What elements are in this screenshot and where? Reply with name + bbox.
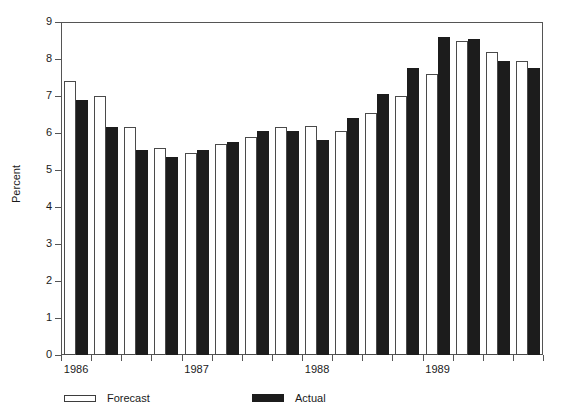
- bar-forecast-0: [64, 81, 76, 355]
- y-tick-label-0: 0: [12, 349, 52, 360]
- y-tick-1: [55, 318, 61, 319]
- bar-actual-9: [347, 118, 359, 355]
- bar-actual-1: [106, 127, 118, 355]
- y-tick-8: [55, 59, 61, 60]
- x-tick-16: [543, 355, 544, 361]
- y-tick-label-8: 8: [12, 53, 52, 64]
- y-tick-label-7: 7: [12, 90, 52, 101]
- actual-swatch-icon: [252, 394, 284, 402]
- bar-forecast-15: [516, 61, 528, 355]
- y-tick-9: [55, 22, 61, 23]
- x-tick-6: [242, 355, 243, 361]
- bar-forecast-11: [395, 96, 407, 355]
- bars-layer: [61, 22, 543, 355]
- bar-forecast-4: [185, 153, 197, 355]
- bar-actual-12: [438, 37, 450, 355]
- x-tick-11: [392, 355, 393, 361]
- y-tick-5: [55, 170, 61, 171]
- bar-forecast-12: [426, 74, 438, 355]
- forecast-swatch-icon: [64, 395, 96, 402]
- bar-actual-0: [76, 100, 88, 355]
- bar-actual-11: [407, 68, 419, 355]
- legend-label-actual: Actual: [295, 392, 326, 404]
- x-tick-4: [182, 355, 183, 361]
- x-tick-label-1989: 1989: [425, 363, 449, 375]
- y-tick-label-9: 9: [12, 16, 52, 27]
- bar-forecast-3: [154, 148, 166, 355]
- x-tick-0: [61, 355, 62, 361]
- bar-forecast-5: [215, 144, 227, 355]
- bar-actual-2: [136, 150, 148, 355]
- bar-forecast-8: [305, 126, 317, 355]
- x-tick-12: [423, 355, 424, 361]
- legend-entry-forecast: Forecast: [64, 388, 150, 408]
- x-tick-5: [212, 355, 213, 361]
- x-tick-1: [91, 355, 92, 361]
- y-tick-4: [55, 207, 61, 208]
- bar-actual-8: [317, 140, 329, 355]
- y-tick-label-6: 6: [12, 127, 52, 138]
- x-tick-2: [121, 355, 122, 361]
- bar-forecast-1: [94, 96, 106, 355]
- x-tick-8: [302, 355, 303, 361]
- x-tick-label-1986: 1986: [64, 363, 88, 375]
- bar-actual-13: [468, 39, 480, 355]
- bar-forecast-14: [486, 52, 498, 355]
- bar-actual-4: [197, 150, 209, 355]
- x-tick-3: [151, 355, 152, 361]
- bar-forecast-2: [124, 127, 136, 355]
- y-tick-label-3: 3: [12, 238, 52, 249]
- bar-forecast-6: [245, 137, 257, 355]
- y-tick-2: [55, 281, 61, 282]
- bar-forecast-9: [335, 131, 347, 355]
- y-tick-label-1: 1: [12, 312, 52, 323]
- bar-forecast-10: [365, 113, 377, 355]
- y-tick-7: [55, 96, 61, 97]
- y-axis-title: Percent: [10, 144, 22, 224]
- y-tick-label-2: 2: [12, 275, 52, 286]
- bar-actual-10: [377, 94, 389, 355]
- x-tick-10: [362, 355, 363, 361]
- bar-chart-figure: 0123456789 Percent 1986198719881989 Fore…: [0, 0, 569, 411]
- bar-forecast-13: [456, 41, 468, 356]
- x-tick-13: [453, 355, 454, 361]
- legend-label-forecast: Forecast: [107, 392, 150, 404]
- x-tick-14: [483, 355, 484, 361]
- bar-actual-15: [528, 68, 540, 355]
- bar-actual-14: [498, 61, 510, 355]
- x-tick-15: [513, 355, 514, 361]
- legend-entry-actual: Actual: [252, 388, 326, 408]
- x-tick-7: [272, 355, 273, 361]
- bar-actual-3: [166, 157, 178, 355]
- bar-actual-5: [227, 142, 239, 355]
- x-tick-label-1987: 1987: [184, 363, 208, 375]
- bar-actual-6: [257, 131, 269, 355]
- y-tick-3: [55, 244, 61, 245]
- bar-actual-7: [287, 131, 299, 355]
- x-tick-9: [332, 355, 333, 361]
- x-tick-label-1988: 1988: [305, 363, 329, 375]
- bar-forecast-7: [275, 127, 287, 355]
- chart-legend: Forecast Actual: [0, 388, 569, 411]
- y-tick-6: [55, 133, 61, 134]
